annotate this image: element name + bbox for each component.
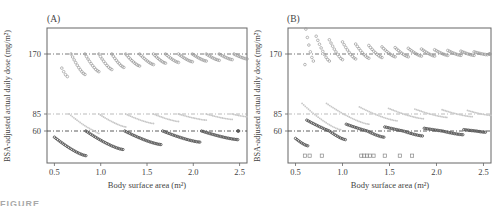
data-point [99,55,102,58]
data-point [441,109,443,111]
data-point [317,39,320,42]
data-point [319,117,321,119]
figure-caption: FIGURE [0,199,40,206]
data-point [348,116,350,118]
data-point [315,35,318,38]
data-point [476,112,478,114]
data-point [202,119,204,121]
data-point [111,121,113,123]
data-point [444,110,446,112]
data-point [126,114,128,116]
data-point [432,114,434,116]
data-point [235,114,237,116]
data-point [416,109,418,111]
data-point [446,110,448,112]
data-point [107,119,109,121]
data-point [179,114,181,116]
data-point [191,117,193,119]
data-point [184,115,186,117]
data-point [383,154,386,157]
data-point [176,120,178,122]
data-point [194,117,196,119]
data-point [231,58,234,61]
data-point [177,61,180,64]
data-point [106,118,108,120]
data-point [135,117,137,119]
data-point [345,114,347,116]
data-point [238,115,240,117]
data-point [304,63,307,66]
data-point [352,118,354,120]
data-point [189,116,191,118]
data-point [341,41,344,44]
y-tick-label: 170 [269,49,282,59]
data-point [340,129,342,131]
data-point [225,118,227,120]
data-point [331,45,334,48]
data-point [230,118,232,120]
data-point [301,103,303,105]
data-point [220,117,222,119]
data-point [359,106,361,108]
data-point [343,43,346,46]
data-point [360,121,362,123]
data-point [485,114,487,116]
data-point [236,114,238,116]
data-point [375,114,377,116]
data-point [66,75,69,78]
data-point [342,113,344,115]
data-point [334,108,336,110]
data-point [118,124,120,126]
data-point [196,118,198,120]
data-point [204,119,206,121]
data-point [125,126,127,128]
data-point [418,117,420,119]
data-point [344,114,346,116]
svg-text:BSA-adjusted actual daily dose: BSA-adjusted actual daily dose (mg/m²) [3,30,12,162]
data-point [130,115,132,117]
data-point [197,118,199,120]
x-tick-label: 2.0 [188,167,199,177]
data-point [133,117,135,119]
data-point [370,112,372,114]
data-point [205,119,207,121]
data-point [443,116,445,118]
data-point [303,104,305,106]
panel-label: (A) [47,14,60,25]
data-point [320,47,323,50]
data-point [62,70,65,73]
data-point [487,114,489,116]
data-point [392,109,394,111]
data-point [462,114,464,116]
y-tick-label: 170 [28,49,41,59]
data-point [125,113,127,115]
data-point [218,116,220,118]
data-point [61,67,64,70]
data-point [128,115,130,117]
data-point [380,115,382,117]
data-point [396,120,398,122]
data-point [246,116,248,118]
data-point [358,120,360,122]
data-point [199,118,201,120]
data-point [326,103,328,105]
data-point [454,113,456,115]
data-point [440,116,442,118]
data-point [474,112,476,114]
axes-frame [47,28,247,163]
data-point [489,114,491,116]
data-point [386,118,388,120]
data-point [231,119,233,121]
data-point [90,128,92,130]
data-point [460,54,463,57]
data-point [420,55,423,58]
data-point [459,114,461,116]
data-point [367,110,369,112]
data-point [98,113,100,115]
data-point [151,122,153,124]
data-point [212,115,214,117]
data-point [465,115,467,117]
data-point [320,119,322,121]
data-point [460,114,462,116]
data-point [160,116,162,118]
